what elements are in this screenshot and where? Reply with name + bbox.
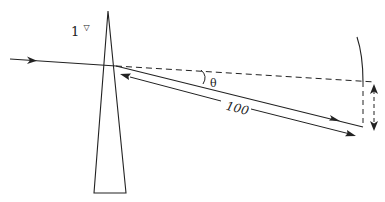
prism-diopter-icon: ▽ [83, 23, 90, 32]
prism [94, 11, 126, 193]
undeviated-path-dashed [116, 66, 375, 82]
prism-power-value: 1 [71, 24, 79, 39]
angle-arc [201, 70, 205, 84]
prism-power-label: 1 ▽ [71, 23, 90, 39]
distance-left-arrow-icon [120, 74, 131, 81]
deviated-ray [116, 66, 363, 127]
incident-ray [10, 59, 116, 66]
distance-label: 100 [225, 99, 251, 118]
angle-label: θ [210, 77, 217, 90]
distance-dimension-line-right [251, 109, 350, 134]
deviated-ray-arrow-icon [329, 115, 340, 121]
prism-diagram: 100 θ 1 1 ▽ [0, 0, 385, 202]
displacement-down-arrow-icon [370, 121, 378, 131]
displacement-label: 1 [370, 101, 377, 114]
screen-arc [357, 37, 363, 82]
